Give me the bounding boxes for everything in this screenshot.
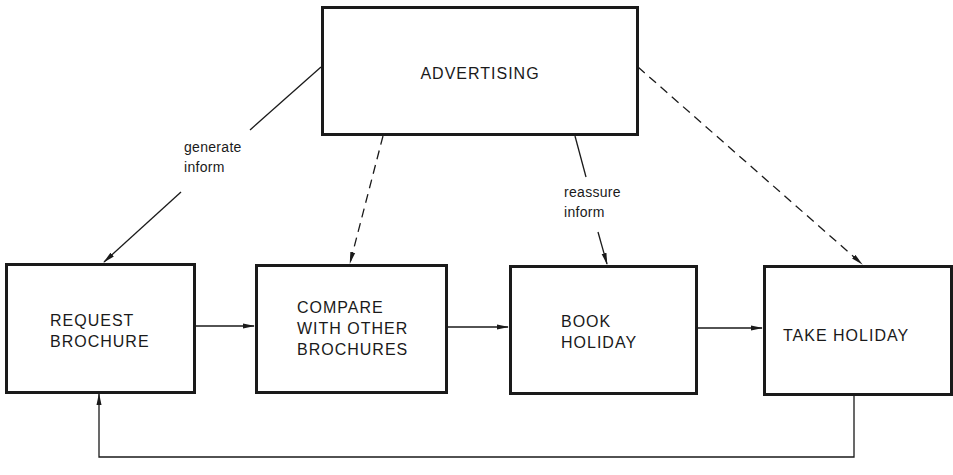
node-advertising-label: ADVERTISING — [324, 63, 636, 84]
edge-label-generate-inform: generate inform — [184, 137, 242, 177]
node-take-holiday: TAKE HOLIDAY — [763, 265, 953, 396]
node-take-holiday-label: TAKE HOLIDAY — [783, 325, 909, 346]
edge-advertising-to-take-holiday — [638, 67, 862, 264]
node-request-brochure: REQUEST BROCHURE — [5, 263, 196, 394]
node-request-brochure-label: REQUEST BROCHURE — [50, 310, 150, 352]
edge-advertising-to-compare — [350, 136, 383, 263]
edge-label-reassure-inform: reassure inform — [564, 182, 621, 222]
node-advertising: ADVERTISING — [321, 6, 639, 136]
node-compare-label: COMPARE WITH OTHER BROCHURES — [297, 297, 408, 360]
edge-take-holiday-feedback-to-request — [99, 394, 854, 457]
node-compare-with-other-brochures: COMPARE WITH OTHER BROCHURES — [255, 264, 448, 394]
node-book-holiday-label: BOOK HOLIDAY — [561, 311, 637, 353]
node-book-holiday: BOOK HOLIDAY — [509, 265, 698, 395]
